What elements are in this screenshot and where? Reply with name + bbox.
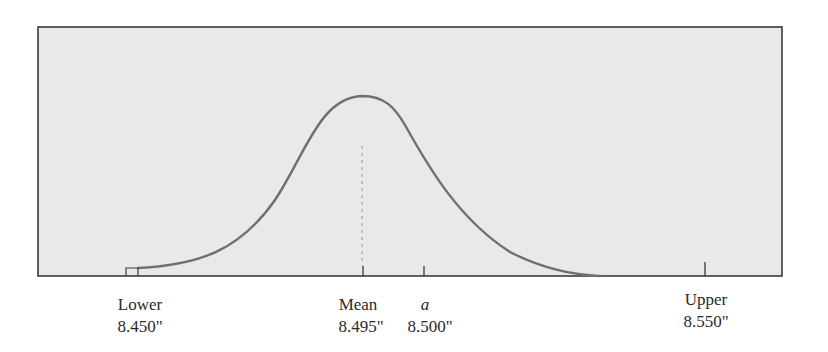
plot-area	[38, 27, 782, 276]
a-value: 8.500"	[407, 317, 452, 337]
a-label: a	[421, 295, 430, 315]
lower-value: 8.450"	[117, 317, 162, 337]
upper-value: 8.550"	[683, 312, 728, 332]
normal-distribution-figure: Lower 8.450" Mean 8.495" a 8.500" Upper …	[0, 0, 828, 352]
mean-value: 8.495"	[338, 317, 383, 337]
mean-label: Mean	[339, 295, 378, 315]
upper-label: Upper	[685, 290, 727, 310]
lower-label: Lower	[118, 295, 162, 315]
